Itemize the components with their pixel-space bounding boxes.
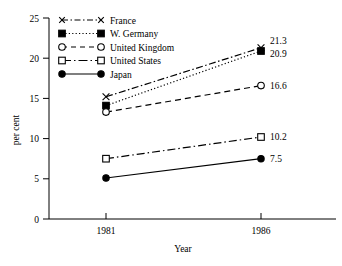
series-line-united-states	[106, 137, 261, 159]
value-label-japan: 7.5	[270, 154, 282, 164]
value-label-united-kingdom: 16.6	[270, 81, 287, 91]
x-axis-title: Year	[174, 244, 192, 254]
legend-label-japan: Japan	[110, 70, 132, 80]
marker-japan-1986	[258, 156, 264, 162]
marker-w-germany-1981	[103, 102, 110, 109]
y-tick-label-25: 25	[30, 14, 40, 24]
y-tick-label-5: 5	[34, 174, 39, 184]
marker-united-kingdom-1986	[258, 82, 265, 89]
y-tick-label-20: 20	[30, 54, 40, 64]
line-chart: 25 20 15 10 5 0 per cent 1981 1986 Year	[0, 0, 342, 266]
series-united-kingdom: 16.6	[103, 81, 287, 115]
y-tick-label-10: 10	[30, 134, 40, 144]
value-label-united-states: 10.2	[270, 132, 287, 142]
series-japan: 7.5	[103, 154, 282, 181]
marker-united-kingdom-1981	[103, 109, 110, 116]
legend-marker-united-states-left	[59, 57, 66, 64]
legend-marker-japan-right	[98, 71, 104, 77]
legend-label-united-states: United States	[110, 56, 161, 66]
legend: France W. Germany United Kingdom	[59, 16, 175, 80]
legend-marker-united-states-right	[98, 57, 105, 64]
legend-marker-w-germany-right	[98, 30, 105, 37]
y-axis-title: per cent	[11, 114, 21, 145]
legend-marker-japan-left	[59, 71, 65, 77]
legend-marker-w-germany-left	[59, 30, 66, 37]
marker-united-states-1981	[103, 155, 110, 162]
y-tick-label-0: 0	[34, 215, 39, 225]
x-tick-label-1981: 1981	[97, 226, 116, 236]
marker-japan-1981	[103, 175, 109, 181]
legend-item-w-germany[interactable]: W. Germany	[59, 29, 159, 39]
legend-marker-united-kingdom-left	[59, 44, 66, 51]
legend-label-w-germany: W. Germany	[110, 29, 158, 39]
legend-item-united-states[interactable]: United States	[59, 56, 162, 66]
marker-w-germany-1986	[258, 48, 265, 55]
x-tick-label-1986: 1986	[252, 226, 271, 236]
legend-item-japan[interactable]: Japan	[59, 70, 132, 80]
value-label-w-germany: 20.9	[270, 49, 287, 59]
legend-item-united-kingdom[interactable]: United Kingdom	[59, 43, 175, 53]
marker-united-states-1986	[258, 134, 265, 141]
legend-item-france[interactable]: France	[59, 16, 136, 26]
chart-container: 25 20 15 10 5 0 per cent 1981 1986 Year	[0, 0, 342, 266]
axes-group	[49, 18, 336, 219]
series-line-japan	[106, 159, 261, 178]
x-tick-marks	[106, 213, 261, 219]
legend-label-france: France	[110, 16, 136, 26]
legend-label-united-kingdom: United Kingdom	[110, 43, 175, 53]
legend-marker-united-kingdom-right	[98, 44, 105, 51]
marker-france-1981	[103, 93, 110, 100]
value-label-france: 21.3	[270, 36, 287, 46]
y-tick-marks	[43, 18, 49, 219]
y-tick-label-15: 15	[30, 94, 40, 104]
